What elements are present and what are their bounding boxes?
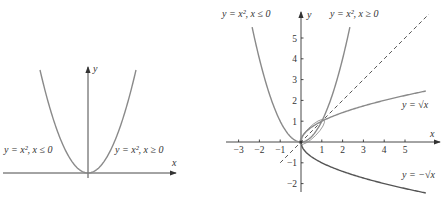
x-tick-label: 5 [403,145,408,155]
x-tick-label: −1 [275,145,285,155]
x-tick-label: −3 [234,145,244,155]
right-y-label: y [306,9,312,20]
y-tick-label: 1 [292,117,297,127]
y-tick-label: −2 [287,179,297,189]
y-tick-label: −1 [287,158,297,168]
figure: x y y = x², x ≤ 0 y = x², x ≥ 0 x y −3−2… [0,0,442,202]
right-x-label: x [429,128,435,139]
left-panel: x y y = x², x ≤ 0 y = x², x ≥ 0 [3,63,177,178]
y-tick-label: 4 [292,54,297,64]
left-parabola-positive [88,70,136,173]
right-parabola-positive [301,27,350,142]
x-tick-label: 4 [382,145,387,155]
y-tick-label: 2 [292,96,297,106]
line-y-equals-x [280,14,429,163]
x-tick-label: 1 [319,145,324,155]
origin-point [299,140,302,143]
right-label-top-right: y = x², x ≥ 0 [329,8,379,19]
right-label-top-left: y = x², x ≤ 0 [221,8,271,19]
left-x-label: x [171,157,177,168]
left-y-label: y [92,63,98,74]
left-parabola-negative [40,70,88,173]
left-label-positive: y = x², x ≥ 0 [114,144,164,155]
x-tick-label: 3 [361,145,366,155]
right-panel: x y −3−2−112345 54321−1−2 y = x², x ≤ 0 … [221,8,440,193]
y-tick-label: 3 [292,75,297,85]
x-tick-label: −2 [254,145,264,155]
x-tick-label: 2 [340,145,345,155]
left-label-negative: y = x², x ≤ 0 [3,144,53,155]
label-sqrt: y = √x [401,99,429,110]
label-neg-sqrt: y = −√x [401,169,435,180]
y-tick-label: 5 [292,34,297,44]
